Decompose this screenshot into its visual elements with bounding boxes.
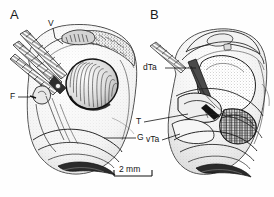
panel-label-b: B [150, 8, 159, 21]
t-leader-line [144, 114, 188, 122]
panel-a-drawing [10, 25, 137, 176]
label-dta: dTa [143, 63, 157, 72]
dta-structure [188, 59, 216, 113]
label-f: F [10, 92, 15, 101]
figure-root: A B V F G dTa T vTa 2 mm [0, 0, 274, 197]
vta-leader-line [162, 134, 180, 140]
label-t: T [136, 117, 141, 126]
v-leader-line [53, 28, 63, 44]
label-v: V [48, 19, 54, 28]
scale-bar-label: 2 mm [119, 165, 140, 174]
panel-b-drawing [144, 29, 269, 177]
label-g: G [137, 133, 144, 142]
segmented-appendages-a [10, 30, 67, 95]
vta-structure [172, 120, 214, 144]
panel-label-a: A [10, 8, 19, 21]
label-vta: vTa [146, 135, 159, 144]
